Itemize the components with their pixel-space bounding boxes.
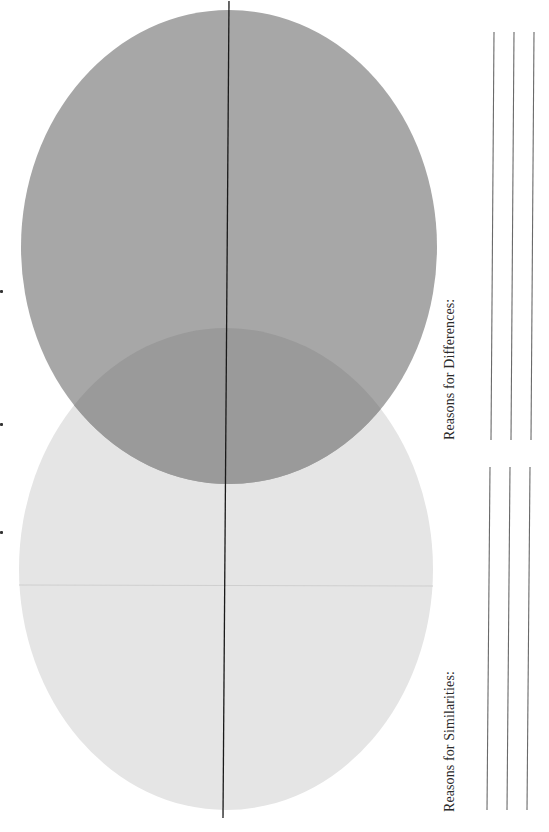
edge-mark (0, 290, 3, 293)
answer-line[interactable] (531, 32, 534, 440)
differences-answer-lines (491, 32, 534, 440)
similarities-heading: Reasons for Similarities: (442, 671, 458, 812)
venn-diagram (0, 0, 549, 832)
answer-line[interactable] (511, 32, 514, 440)
answer-line[interactable] (507, 467, 510, 810)
differences-heading: Reasons for Differences: (442, 299, 458, 440)
answer-line[interactable] (527, 467, 530, 810)
similarities-answer-lines (487, 467, 530, 810)
answer-line[interactable] (487, 467, 490, 810)
answer-line[interactable] (491, 32, 494, 440)
edge-mark (0, 531, 3, 534)
edge-mark (0, 423, 3, 426)
